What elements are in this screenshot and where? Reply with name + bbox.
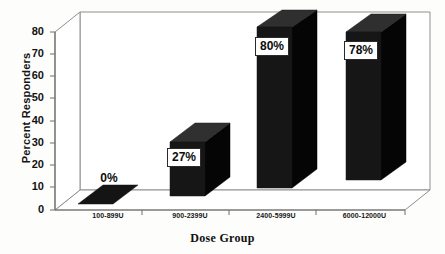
data-label-bar-3: 80% bbox=[255, 37, 289, 56]
y-tick-label-50: 50 bbox=[14, 92, 44, 103]
data-label-bar-4: 78% bbox=[344, 41, 378, 60]
y-tick-label-70: 70 bbox=[14, 48, 44, 59]
y-axis-ticks bbox=[50, 32, 55, 210]
y-tick-label-60: 60 bbox=[14, 70, 44, 81]
x-axis-title: Dose Group bbox=[0, 231, 445, 246]
x-tick-label-100-899U: 100-899U bbox=[68, 212, 148, 219]
x-tick-label-900-2399U: 900-2399U bbox=[150, 212, 230, 219]
x-tick-label-2400-5999U: 2400-5999U bbox=[236, 212, 316, 219]
bar-6000-12000U bbox=[346, 14, 406, 180]
bar-3-side-face bbox=[292, 10, 317, 188]
bar-chart-figure: Percent Responders bbox=[0, 0, 445, 254]
y-tick-label-40: 40 bbox=[14, 115, 44, 126]
x-tick-label-6000-12000U: 6000-12000U bbox=[322, 212, 407, 219]
y-tick-label-0: 0 bbox=[14, 204, 44, 215]
bar-4-side-face bbox=[381, 14, 406, 180]
data-label-bar-2: 27% bbox=[167, 148, 201, 167]
y-tick-label-30: 30 bbox=[14, 137, 44, 148]
y-tick-label-10: 10 bbox=[14, 181, 44, 192]
y-tick-label-20: 20 bbox=[14, 159, 44, 170]
data-label-bar-1: 0% bbox=[92, 171, 126, 185]
y-tick-label-80: 80 bbox=[14, 26, 44, 37]
plot-left-wall bbox=[55, 12, 80, 210]
